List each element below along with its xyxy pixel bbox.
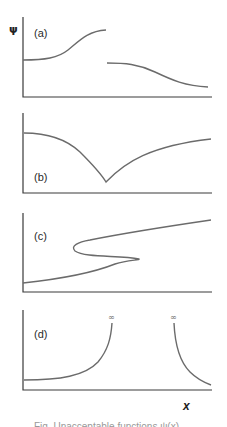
infinity-marker-left: ∞: [108, 313, 115, 322]
panel-d-axes: [23, 310, 212, 390]
x-axis-label: x: [182, 399, 191, 413]
panel-d-curve-right: [174, 323, 211, 385]
panel-d-label: (d): [34, 328, 47, 340]
panel-c: (c): [23, 213, 212, 292]
panel-b-label: (b): [34, 171, 47, 183]
panel-a-curve-right: [107, 63, 208, 87]
panel-b-axes: [23, 113, 212, 193]
panel-a-label: (a): [34, 27, 47, 39]
panel-c-axes: [23, 213, 212, 292]
figure-caption: Fig. Unacceptable functions ψ(x): [34, 421, 179, 427]
panel-b-curve: [24, 133, 211, 182]
panel-d: (d) ∞ ∞ x: [23, 310, 212, 413]
infinity-marker-right: ∞: [170, 313, 177, 322]
psi-axis-label: ψ: [9, 23, 18, 36]
figure-canvas: ψ (a) (b) (c) (d) ∞ ∞ x: [0, 0, 227, 427]
panel-c-label: (c): [34, 230, 47, 242]
panel-c-curve: [23, 220, 211, 283]
panel-a: ψ (a): [9, 17, 212, 97]
panel-b: (b): [23, 113, 212, 193]
